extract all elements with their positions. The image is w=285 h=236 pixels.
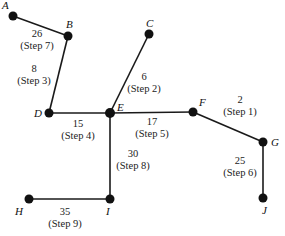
node-label-c: C: [146, 17, 154, 29]
edge-weight-e-i: 30: [128, 148, 139, 159]
spanning-tree-diagram: A B C D E F G J H I 26 (Step 7) 8 (Step …: [0, 0, 285, 236]
edge-step-b-d: (Step 3): [17, 75, 51, 87]
edge-weight-a-b: 26: [32, 28, 43, 39]
edge-weight-h-i: 35: [60, 206, 71, 217]
edge-step-h-i: (Step 9): [48, 218, 82, 230]
edge-weight-b-d: 8: [31, 63, 36, 74]
edge-step-g-j: (Step 6): [223, 167, 257, 179]
node-g: [259, 138, 268, 147]
edge-step-e-f: (Step 5): [135, 128, 169, 140]
edge-step-d-e: (Step 4): [61, 130, 95, 142]
edge-step-c-e: (Step 2): [127, 83, 161, 95]
node-label-a: A: [1, 0, 9, 11]
node-label-e: E: [116, 101, 124, 113]
node-c: [145, 30, 154, 39]
node-h: [25, 195, 34, 204]
edge-weight-d-e: 15: [73, 118, 84, 129]
node-f: [189, 108, 198, 117]
edge-weight-e-f: 17: [147, 116, 158, 127]
edge-weight-c-e: 6: [141, 71, 146, 82]
node-label-h: H: [14, 205, 24, 217]
edge-weight-g-j: 25: [235, 155, 246, 166]
edge-step-e-i: (Step 8): [116, 160, 150, 172]
node-b: [64, 32, 73, 41]
node-label-j: J: [262, 204, 268, 216]
node-label-g: G: [271, 136, 279, 148]
node-label-i: I: [105, 205, 111, 217]
node-label-f: F: [198, 96, 206, 108]
node-a: [9, 12, 18, 21]
node-label-b: B: [66, 18, 73, 30]
node-i: [106, 195, 115, 204]
edge-step-a-b: (Step 7): [20, 40, 54, 52]
edge-weight-f-g: 2: [237, 94, 242, 105]
node-e: [105, 108, 115, 118]
node-label-d: D: [33, 107, 42, 119]
edge-step-f-g: (Step 1): [223, 106, 257, 118]
node-d: [45, 109, 54, 118]
node-j: [259, 194, 268, 203]
